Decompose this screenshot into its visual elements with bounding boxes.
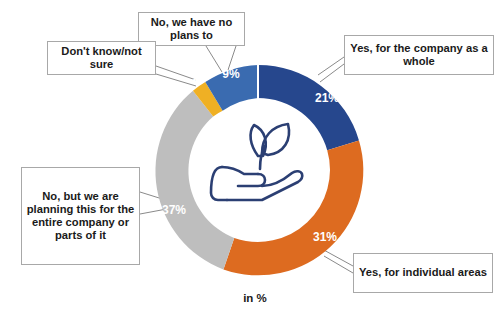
chart-caption: in % [215, 292, 295, 304]
leader-line-company-whole [318, 57, 344, 75]
callout-company-whole[interactable]: Yes, for the company as a whole [344, 35, 494, 75]
callout-dont-know[interactable]: Don't know/not sure [47, 41, 156, 75]
slice-label-no-plans: 9% [222, 67, 240, 81]
slice-label-company-whole: 21% [315, 91, 339, 105]
leader-line-company-whole-2 [320, 64, 344, 82]
callout-individual-areas[interactable]: Yes, for individual areas [353, 253, 493, 293]
slice-label-planning: 37% [162, 203, 186, 217]
hand-holding-plant-icon [211, 124, 302, 200]
donut-segment-company-whole[interactable] [258, 65, 359, 150]
donut-segment-planning[interactable] [155, 91, 234, 270]
leader-line-dont-know [156, 66, 196, 80]
slice-label-individual-areas: 31% [313, 230, 337, 244]
donut-chart-figure: 21% 31% 37% 2% 9% No, we have no plans t… [0, 0, 502, 321]
leader-line-no-plans [206, 46, 222, 72]
donut-segment-individual-areas[interactable] [223, 140, 363, 275]
callout-planning[interactable]: No, but we are planning this for the ent… [21, 167, 140, 265]
